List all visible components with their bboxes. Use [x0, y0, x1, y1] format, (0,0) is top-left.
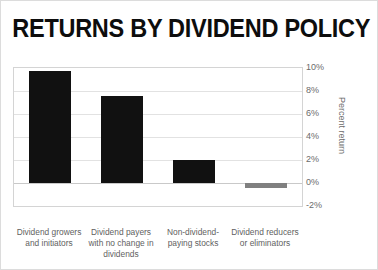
- x-axis-category-label: Non-dividend-paying stocks: [157, 227, 229, 269]
- bar[interactable]: [29, 71, 71, 183]
- bar-slot: [14, 68, 86, 206]
- bar[interactable]: [245, 183, 287, 188]
- x-axis-category-label: Dividend payers with no change in divide…: [85, 227, 157, 269]
- y-axis-tick-label: 4%: [306, 132, 340, 141]
- y-axis-title: Percent return: [337, 97, 346, 154]
- plot-area: [13, 67, 303, 207]
- y-axis-tick-label: 0%: [306, 178, 340, 187]
- bar-slot: [158, 68, 230, 206]
- chart-title: RETURNS BY DIVIDEND POLICY: [12, 14, 367, 42]
- y-axis-tick-label: 8%: [306, 86, 340, 95]
- x-axis-category-label: Dividend growers and initiators: [13, 227, 85, 269]
- bar[interactable]: [173, 160, 215, 183]
- y-axis-tick-label: 6%: [306, 109, 340, 118]
- x-axis-category-label: Dividend reducers or eliminators: [229, 227, 301, 269]
- chart-figure: RETURNS BY DIVIDEND POLICY Percent retur…: [0, 0, 378, 270]
- y-axis-tick-label: 2%: [306, 155, 340, 164]
- x-axis-labels: Dividend growers and initiatorsDividend …: [13, 227, 301, 269]
- bar[interactable]: [101, 96, 143, 183]
- bar-slot: [230, 68, 302, 206]
- y-axis-tick-label: -2%: [306, 201, 340, 210]
- y-axis-tick-label: 10%: [306, 63, 340, 72]
- bar-slot: [86, 68, 158, 206]
